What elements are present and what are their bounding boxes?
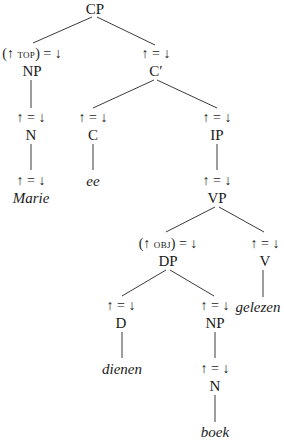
node-vp: VP [207, 191, 226, 206]
annotation-top-pre: (↑ [2, 46, 17, 61]
annotation-top-post: ) = ↓ [35, 46, 62, 61]
annotation-vp: ↑ = ↓ [203, 174, 232, 188]
annotation-marie: ↑ = ↓ [17, 174, 46, 188]
annotation-np-obj: ↑ = ↓ [201, 299, 230, 313]
edge-dp-d [122, 270, 166, 296]
edge-dp-np [170, 270, 214, 296]
node-cp: CP [86, 2, 104, 17]
edge-cp-np [33, 17, 92, 43]
annotation-n: ↑ = ↓ [17, 111, 46, 125]
word-dienen: dienen [102, 362, 142, 377]
word-marie: Marie [13, 191, 50, 206]
node-dp: DP [158, 254, 177, 269]
tree-edges [0, 0, 284, 441]
feature-top: TOP [17, 46, 35, 61]
edge-cp-cbar [97, 17, 155, 45]
annotation-obj: (↑ OBJ) = ↓ [139, 237, 198, 251]
word-ee: ee [86, 174, 99, 189]
edge-cbar-ip [157, 80, 217, 108]
annotation-obj-post: ) = ↓ [171, 236, 198, 251]
node-c: C [88, 128, 98, 143]
edge-vp-dp [166, 207, 215, 232]
annotation-obj-pre: (↑ [139, 236, 154, 251]
annotation-top: (↑ TOP) = ↓ [2, 47, 61, 61]
annotation-d: ↑ = ↓ [107, 299, 136, 313]
annotation-v: ↑ = ↓ [251, 237, 280, 251]
word-gelezen: gelezen [236, 300, 281, 315]
annotation-ip: ↑ = ↓ [203, 111, 232, 125]
word-boek: boek [201, 425, 229, 440]
node-v: V [260, 254, 271, 269]
node-cbar: C′ [149, 64, 162, 79]
node-np-top: NP [22, 64, 41, 79]
feature-obj: OBJ [154, 236, 171, 251]
annotation-cbar: ↑ = ↓ [142, 47, 171, 61]
node-n: N [26, 128, 37, 143]
node-ip: IP [210, 128, 223, 143]
annotation-c: ↑ = ↓ [79, 111, 108, 125]
node-np-obj: NP [205, 316, 224, 331]
edge-cbar-c [93, 80, 154, 108]
annotation-n-boek: ↑ = ↓ [201, 362, 230, 376]
edge-vp-v [219, 207, 264, 232]
node-d: D [116, 316, 127, 331]
node-n-boek: N [210, 379, 221, 394]
